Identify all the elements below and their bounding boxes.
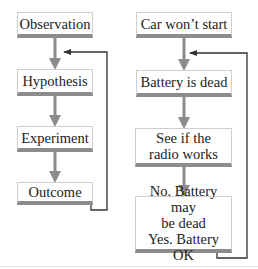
step-label: Observation	[20, 16, 91, 32]
step-label: Car won’t start	[141, 16, 228, 32]
step-see-if-radio-works: See if the radio works	[135, 128, 232, 167]
step-label: Battery is dead	[141, 74, 228, 90]
step-hypothesis: Hypothesis	[17, 69, 93, 96]
step-battery-is-dead: Battery is dead	[136, 70, 232, 97]
step-car-wont-start: Car won’t start	[136, 12, 232, 38]
step-label: Experiment	[21, 130, 89, 146]
step-label: Hypothesis	[22, 73, 87, 89]
step-outcome: Outcome	[17, 182, 93, 205]
step-label: No. Battery may be dead Yes. Battery OK	[136, 183, 231, 263]
bottom-divider	[0, 266, 258, 267]
step-experiment: Experiment	[17, 126, 93, 152]
step-label: See if the radio works	[149, 130, 218, 162]
step-observation: Observation	[17, 12, 93, 38]
step-battery-result: No. Battery may be dead Yes. Battery OK	[135, 196, 232, 253]
step-label: Outcome	[28, 184, 81, 200]
